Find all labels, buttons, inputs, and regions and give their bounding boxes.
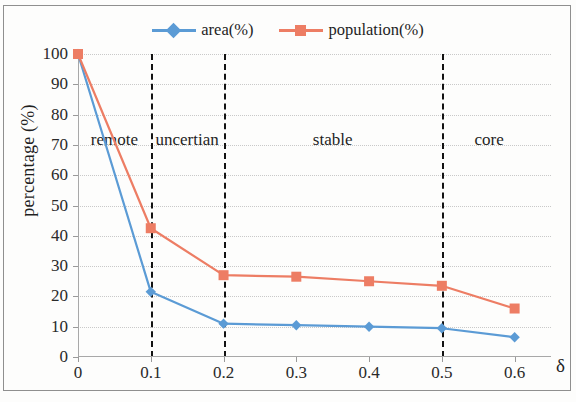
- legend-label-area: area(%): [201, 20, 253, 40]
- legend-swatch-population: [279, 23, 323, 37]
- y-tick-label: 40: [0, 227, 68, 244]
- x-tick-label: 0.2: [194, 364, 254, 381]
- y-tick-label: 0: [0, 348, 68, 365]
- chart-figure: area(%) population(%) percentage (%) δ 0…: [0, 0, 576, 402]
- legend-swatch-area: [152, 23, 196, 37]
- x-tick-mark: [224, 357, 225, 362]
- square-marker-icon: [295, 25, 306, 36]
- x-tick-mark: [515, 357, 516, 362]
- y-tick-label: 10: [0, 318, 68, 335]
- x-tick-label: 0: [48, 364, 108, 381]
- y-tick-label: 50: [0, 197, 68, 214]
- y-axis-title: percentage (%): [18, 71, 39, 251]
- plot-area: [78, 54, 551, 357]
- diamond-marker-icon: [166, 23, 182, 39]
- y-tick-label: 70: [0, 136, 68, 153]
- y-tick-label: 30: [0, 257, 68, 274]
- y-tick-label: 60: [0, 166, 68, 183]
- x-tick-label: 0.6: [485, 364, 545, 381]
- chart-legend: area(%) population(%): [0, 20, 576, 40]
- legend-label-population: population(%): [328, 20, 423, 40]
- legend-item-population[interactable]: population(%): [279, 20, 423, 40]
- y-tick-label: 100: [0, 45, 68, 62]
- x-tick-label: 0.4: [339, 364, 399, 381]
- x-tick-label: 0.3: [266, 364, 326, 381]
- x-tick-label: 0.5: [412, 364, 472, 381]
- y-tick-label: 80: [0, 106, 68, 123]
- x-tick-mark: [369, 357, 370, 362]
- y-tick-label: 20: [0, 287, 68, 304]
- x-tick-mark: [151, 357, 152, 362]
- legend-item-area[interactable]: area(%): [152, 20, 253, 40]
- x-tick-mark: [296, 357, 297, 362]
- x-axis-title: δ: [556, 355, 565, 377]
- x-tick-mark: [442, 357, 443, 362]
- x-tick-label: 0.1: [121, 364, 181, 381]
- x-tick-mark: [78, 357, 79, 362]
- y-tick-label: 90: [0, 75, 68, 92]
